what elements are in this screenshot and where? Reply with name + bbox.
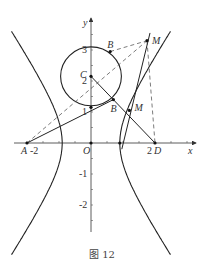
label-d: D <box>153 145 162 156</box>
point-b-lower <box>112 98 115 101</box>
dashed-b-m <box>110 41 147 52</box>
label-origin: O <box>83 145 90 156</box>
x-tick-label: -2 <box>30 145 38 156</box>
point-v-right <box>118 141 121 144</box>
y-tick-label: -1 <box>79 168 87 179</box>
label-m-upper: M <box>151 35 161 46</box>
dashed-a-m <box>27 41 147 143</box>
label-y-axis: y <box>82 17 88 28</box>
y-tick-label: 1 <box>82 106 87 117</box>
label-b-lower: B <box>110 103 116 114</box>
label-a: A <box>20 145 28 156</box>
x-tick-label: 2 <box>147 145 152 156</box>
point-m-upper <box>145 39 148 42</box>
point-m-lower <box>128 109 131 112</box>
line-c-d <box>91 76 155 143</box>
point-c <box>89 75 92 78</box>
diagram: A-22DOxy321-1-2CBBMM <box>0 0 204 270</box>
point-b-upper <box>109 50 112 53</box>
figure-caption: 图 12 <box>0 246 204 261</box>
y-tick-label: -2 <box>79 199 87 210</box>
label-c: C <box>80 69 87 80</box>
point-p-circle_bottom <box>89 106 92 109</box>
label-m-lower: M <box>133 102 143 113</box>
label-b-upper: B <box>107 39 113 50</box>
dashed-m-d <box>147 41 155 143</box>
label-x-axis: x <box>187 145 193 156</box>
y-tick-label: 3 <box>82 44 87 55</box>
